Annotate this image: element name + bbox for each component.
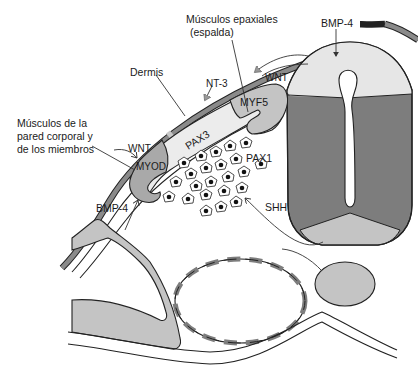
- lateral-plate-mesoderm: [72, 219, 181, 349]
- neural-tube: [287, 42, 412, 245]
- notochord: [315, 262, 375, 306]
- label-dermis: Dermis: [130, 66, 163, 78]
- label-epaxial-2: (espalda): [190, 26, 234, 38]
- label-nt3: NT-3: [206, 78, 228, 89]
- label-bmp4-bottom: BMP-4: [96, 202, 128, 214]
- label-limb-3: de los miembros: [17, 143, 94, 155]
- label-limb-1: Músculos de la: [17, 117, 87, 129]
- label-shh: SHH: [265, 201, 287, 213]
- label-wnt-top: WNT: [265, 72, 288, 83]
- label-myod: MYOD: [136, 161, 166, 172]
- label-wnt-left: WNT: [128, 143, 151, 154]
- label-pax1: PAX1: [246, 152, 272, 164]
- label-bmp4-top: BMP-4: [321, 17, 353, 29]
- somite-diagram: Músculos epaxiales (espalda) BMP-4 WNT N…: [0, 0, 418, 370]
- label-epaxial-1: Músculos epaxiales: [186, 13, 278, 25]
- label-limb-2: pared corporal y: [17, 130, 94, 142]
- label-myf5: MYF5: [240, 96, 268, 108]
